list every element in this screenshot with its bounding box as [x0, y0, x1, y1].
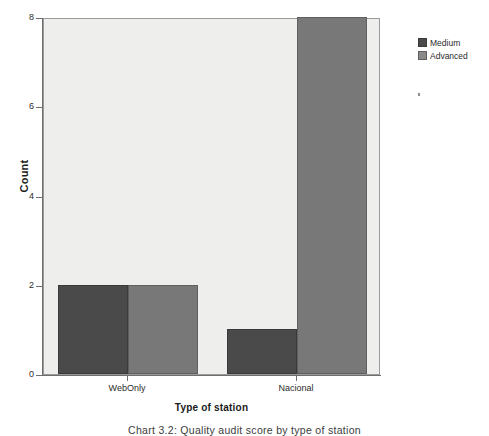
plot-inner — [44, 19, 379, 374]
x-axis-tick — [127, 376, 128, 381]
legend-swatch-advanced-icon — [418, 51, 427, 60]
plot-area — [43, 18, 380, 375]
y-axis-tick-label: 2 — [12, 281, 34, 290]
figure-caption: Chart 3.2: Quality audit score by type o… — [0, 424, 489, 436]
legend-item-medium: Medium — [418, 37, 486, 48]
y-axis-tick-label: 0 — [12, 370, 34, 379]
y-axis-line — [42, 18, 43, 376]
legend: Medium Advanced — [418, 37, 486, 63]
legend-label-medium: Medium — [430, 38, 460, 48]
x-axis-title: Type of station — [43, 402, 380, 413]
y-axis-tick — [36, 286, 42, 287]
y-axis-tick-label: 8 — [12, 13, 34, 22]
scan-speck-artifact — [418, 93, 420, 96]
bar-webonly-advanced — [128, 285, 198, 374]
legend-swatch-medium-icon — [418, 38, 427, 47]
bar-webonly-medium — [58, 285, 128, 374]
x-axis-line — [42, 375, 381, 376]
legend-label-advanced: Advanced — [430, 51, 468, 61]
bar-nacional-medium — [227, 329, 297, 374]
legend-item-advanced: Advanced — [418, 50, 486, 61]
y-axis-title: Count — [18, 146, 30, 206]
y-axis-tick-label: 6 — [12, 102, 34, 111]
y-axis-tick — [36, 197, 42, 198]
x-axis-tick-label: Nacional — [241, 383, 351, 393]
x-axis-tick — [296, 376, 297, 381]
y-axis-tick — [36, 18, 42, 19]
bar-nacional-advanced — [297, 17, 367, 374]
y-axis-tick — [36, 107, 42, 108]
x-axis-tick-label: WebOnly — [72, 383, 182, 393]
